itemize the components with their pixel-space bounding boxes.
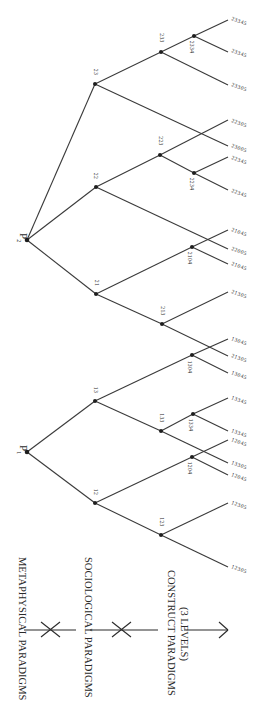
node-label-123: 123 [159, 517, 165, 526]
leaf-label: 22305 [231, 117, 248, 128]
leaf-labels: 23345 23345 23305 22305 23005 22345 2234… [231, 15, 248, 574]
paradigm-tree-diagram: P2 P1 23 233 2334 22 223 2234 21 2104 21… [0, 0, 259, 720]
leaf-label: 23345 [231, 47, 248, 58]
node-2334 [192, 34, 196, 38]
paradigm-axis: METAPHYSICAL PARADIGMS SOCIOLOGICAL PARA… [17, 557, 228, 701]
node-label-22: 22 [93, 173, 99, 179]
node-label-1304: 1304 [187, 361, 193, 374]
leaf-label: 21305 [231, 288, 248, 299]
node-13 [93, 399, 97, 403]
node-213 [160, 322, 164, 326]
edges-p1 [27, 339, 228, 567]
axis-label-sociological: SOCIOLOGICAL PARADIGMS [83, 557, 94, 698]
leaf-label: 21305 [231, 352, 248, 363]
node-23 [93, 82, 97, 86]
node-2104 [190, 245, 194, 249]
leaf-label: 21045 [231, 226, 248, 237]
node-label-233: 233 [159, 33, 165, 42]
node-22 [94, 185, 98, 189]
node-133 [159, 429, 163, 433]
node-21 [94, 292, 98, 296]
node-label-213: 213 [160, 306, 166, 315]
node-label-1334: 1334 [188, 419, 194, 432]
node-label-133: 133 [159, 413, 165, 422]
axis-label-construct: CONSTRUCT PARADIGMS [166, 570, 177, 696]
axis-label-metaphysical: METAPHYSICAL PARADIGMS [17, 557, 28, 701]
node-label-1204: 1204 [187, 462, 193, 475]
nodes [25, 34, 196, 537]
leaf-label: 23005 [231, 142, 248, 153]
leaf-label: 13345 [231, 394, 248, 405]
leaf-label: 13045 [231, 335, 248, 346]
axis-sublabel-construct: (3 LEVELS) [178, 607, 190, 661]
node-1204 [190, 455, 194, 459]
node-label-21: 21 [94, 280, 100, 286]
leaf-label: 23305 [231, 81, 248, 92]
node-12 [93, 501, 97, 505]
node-233 [159, 50, 163, 54]
node-223 [158, 153, 162, 157]
node-label-23: 23 [93, 69, 99, 75]
node-123 [159, 533, 163, 537]
leaf-label: 12305 [231, 499, 248, 510]
node-1334 [191, 412, 195, 416]
node-label-2334: 2334 [189, 41, 195, 54]
edges-p2 [27, 20, 228, 356]
leaf-label: 22345 [231, 154, 248, 165]
node-1304 [190, 353, 194, 357]
leaf-label: 22005 [231, 245, 248, 256]
node-2234 [192, 171, 196, 175]
node-label-12: 12 [93, 489, 99, 495]
leaf-label: 21045 [231, 260, 248, 271]
node-label-223: 223 [158, 136, 164, 145]
leaf-label: 12305 [231, 563, 248, 574]
leaf-label: 13305 [231, 459, 248, 470]
node-label-2234: 2234 [189, 178, 195, 191]
node-label-13: 13 [93, 387, 99, 393]
leaf-label: 12045 [231, 471, 248, 482]
leaf-label: 22345 [231, 187, 248, 198]
node-label-2104: 2104 [187, 252, 193, 265]
leaf-label: 13045 [231, 369, 248, 380]
leaf-label: 23345 [231, 15, 248, 26]
